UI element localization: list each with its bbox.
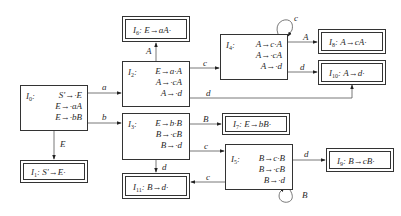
state-I4: I4: A→c·A A→·cA A→·d: [220, 34, 288, 80]
state-I10: I10: A→d·: [318, 60, 386, 85]
edge-I2-I10: [189, 85, 352, 98]
state-I4-label: I4:: [226, 40, 235, 53]
state-I0-label: I0:: [26, 91, 35, 104]
edge-label-I4-I8: A: [303, 32, 309, 42]
edge-I5-I5: [279, 188, 292, 202]
edge-label-I0-I1: E: [60, 139, 66, 149]
edge-label-I2-I4: c: [203, 58, 207, 68]
state-I1-label: I1: S'→E·: [31, 167, 65, 180]
edge-label-I0-I2: a: [102, 82, 107, 92]
edge-label-I4-I10: d: [300, 62, 305, 72]
state-I8: I8: A→cA·: [318, 29, 386, 54]
state-I5: I5: B→c·B B→·cB B→·d: [225, 144, 293, 190]
edge-label-I2-I10: d: [206, 88, 211, 98]
state-I6: I6: E→aA·: [122, 16, 190, 42]
state-I0: I0: S'→·E E→·aA E→·bB: [20, 85, 88, 131]
edge-label-I5-I9: d: [304, 149, 309, 159]
state-I3-items: E→b·B B→·cB B→·d: [155, 118, 182, 151]
state-I5-label: I5:: [231, 154, 240, 167]
state-I9-label: I9: B→cB·: [337, 156, 375, 169]
state-I10-label: I10: A→d·: [329, 68, 365, 81]
state-I9: I9: B→cB·: [326, 148, 394, 172]
edge-label-I2-I6: A: [146, 46, 152, 56]
state-I3: I3: E→b·B B→·cB B→·d: [122, 113, 190, 160]
state-I7-label: I7: E→bB·: [233, 119, 271, 132]
state-I4-items: A→c·A A→·cA A→·d: [256, 39, 282, 72]
edge-label-I5-I5: B: [302, 190, 308, 200]
edge-label-I3-I7: B: [203, 114, 209, 124]
state-I5-items: B→c·B B→·cB B→·d: [259, 153, 285, 186]
state-I1: I1: S'→E·: [20, 160, 88, 183]
edge-label-I0-I3: b: [102, 112, 107, 122]
edge-label-I3-I5: c: [204, 141, 208, 151]
edge-label-I5-I11: c: [206, 172, 210, 182]
state-I11-label: I11: B→d·: [133, 182, 168, 195]
state-I7: I7: E→bB·: [222, 113, 290, 135]
state-I2-items: E→a·A A→·cA A→·d: [155, 66, 182, 99]
state-I6-label: I6: E→aA·: [133, 25, 171, 38]
state-I8-label: I8: A→cA·: [329, 37, 367, 50]
state-I0-items: S'→·E E→·aA E→·bB: [55, 90, 82, 123]
edge-label-I3-I11: d: [162, 162, 167, 172]
state-I3-label: I3:: [128, 119, 137, 132]
state-I2-label: I2:: [128, 67, 137, 80]
state-I2: I2: E→a·A A→·cA A→·d: [122, 61, 190, 107]
edge-label-I4-I4: c: [294, 13, 298, 23]
state-I11: I11: B→d·: [122, 173, 190, 199]
lr-automaton-diagram: a b E A c d c A d B c d c B d I0: S'→·E …: [0, 0, 401, 216]
